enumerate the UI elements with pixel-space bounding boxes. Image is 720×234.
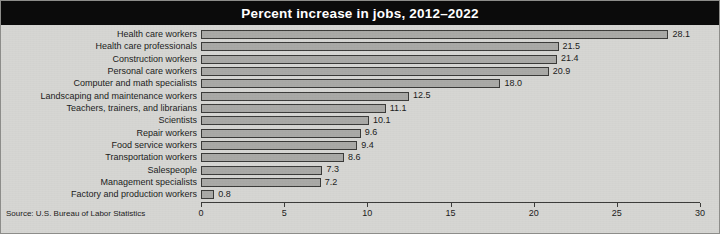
chart-title-band: Percent increase in jobs, 2012–2022 bbox=[1, 1, 719, 25]
bar-row: 12.5 bbox=[201, 91, 700, 103]
x-axis-tick-label: 30 bbox=[695, 208, 705, 218]
bar bbox=[201, 79, 500, 88]
bar-value-label: 18.0 bbox=[504, 78, 522, 89]
bar-value-label: 12.5 bbox=[413, 90, 431, 101]
bar-row: 9.4 bbox=[201, 140, 700, 152]
category-label: Personal care workers bbox=[0, 66, 197, 78]
bar bbox=[201, 190, 214, 199]
x-axis-tick bbox=[367, 203, 368, 207]
bar-value-label: 8.6 bbox=[348, 152, 361, 163]
bar-value-label: 7.2 bbox=[325, 177, 338, 188]
x-axis-tick bbox=[284, 203, 285, 207]
category-label: Salespeople bbox=[0, 165, 197, 177]
bar-row: 9.6 bbox=[201, 128, 700, 140]
bar-row: 7.2 bbox=[201, 177, 700, 189]
bar-row: 0.8 bbox=[201, 189, 700, 201]
bar bbox=[201, 116, 369, 125]
category-label: Transportation workers bbox=[0, 152, 197, 164]
x-axis-tick bbox=[451, 203, 452, 207]
bar bbox=[201, 67, 549, 76]
bar-row: 21.5 bbox=[201, 41, 700, 53]
bar bbox=[201, 153, 344, 162]
x-axis-tick bbox=[534, 203, 535, 207]
bar bbox=[201, 178, 321, 187]
bar-value-label: 7.3 bbox=[326, 164, 339, 175]
category-axis-labels: Health care workersHealth care professio… bbox=[0, 29, 197, 202]
bar-value-label: 10.1 bbox=[373, 115, 391, 126]
bar-value-label: 21.4 bbox=[561, 53, 579, 64]
category-label: Management specialists bbox=[0, 177, 197, 189]
x-axis-tick bbox=[201, 203, 202, 207]
category-label: Teachers, trainers, and librarians bbox=[0, 103, 197, 115]
x-axis-tick-label: 10 bbox=[362, 208, 372, 218]
x-axis-tick-label: 15 bbox=[445, 208, 455, 218]
category-label: Repair workers bbox=[0, 128, 197, 140]
bar-row: 28.1 bbox=[201, 29, 700, 41]
bar-value-label: 11.1 bbox=[390, 103, 407, 114]
bar bbox=[201, 166, 322, 175]
x-axis-tick-label: 5 bbox=[282, 208, 287, 218]
x-axis-tick-label: 25 bbox=[612, 208, 622, 218]
plot-area: 28.121.521.420.918.012.511.110.19.69.48.… bbox=[201, 29, 700, 202]
bar-value-label: 9.6 bbox=[365, 127, 378, 138]
bar bbox=[201, 129, 361, 138]
category-label: Computer and math specialists bbox=[0, 78, 197, 90]
bar bbox=[201, 141, 357, 150]
x-axis-tick bbox=[617, 203, 618, 207]
bar-row: 11.1 bbox=[201, 103, 700, 115]
x-axis-tick-label: 20 bbox=[529, 208, 539, 218]
category-label: Construction workers bbox=[0, 54, 197, 66]
category-label: Food service workers bbox=[0, 140, 197, 152]
bar-row: 7.3 bbox=[201, 165, 700, 177]
chart-title: Percent increase in jobs, 2012–2022 bbox=[241, 6, 478, 21]
bar-value-label: 21.5 bbox=[563, 41, 581, 52]
bar-value-label: 0.8 bbox=[218, 189, 231, 200]
bar bbox=[201, 104, 386, 113]
bar bbox=[201, 55, 557, 64]
x-axis-tick-label: 0 bbox=[198, 208, 203, 218]
bar-value-label: 9.4 bbox=[361, 140, 374, 151]
bar-value-label: 28.1 bbox=[672, 29, 690, 40]
bar-row: 10.1 bbox=[201, 115, 700, 127]
bar-value-label: 20.9 bbox=[553, 66, 571, 77]
category-label: Scientists bbox=[0, 115, 197, 127]
bar-row: 18.0 bbox=[201, 78, 700, 90]
source-note: Source: U.S. Bureau of Labor Statistics bbox=[6, 209, 145, 218]
bar bbox=[201, 42, 559, 51]
bar bbox=[201, 30, 668, 39]
x-axis-tick bbox=[700, 203, 701, 207]
category-label: Landscaping and maintenance workers bbox=[0, 91, 197, 103]
chart-figure: Percent increase in jobs, 2012–2022 Heal… bbox=[0, 0, 720, 234]
category-label: Health care professionals bbox=[0, 41, 197, 53]
category-label: Health care workers bbox=[0, 29, 197, 41]
bar-row: 8.6 bbox=[201, 152, 700, 164]
category-label: Factory and production workers bbox=[0, 189, 197, 201]
bar-row: 21.4 bbox=[201, 54, 700, 66]
bar bbox=[201, 92, 409, 101]
bar-row: 20.9 bbox=[201, 66, 700, 78]
